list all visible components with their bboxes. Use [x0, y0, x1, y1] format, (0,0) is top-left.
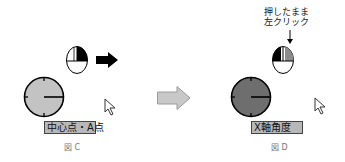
mouse-right-button-icon — [64, 45, 90, 75]
instruction-line-1: 押したまま — [264, 7, 309, 17]
right-arrow-icon — [96, 52, 118, 68]
mouse-left-button-icon — [270, 45, 296, 75]
center-point-label: 中心点・A点 — [44, 121, 96, 134]
dial-clock-icon-dark — [229, 76, 273, 118]
down-arrow-icon — [286, 30, 294, 45]
cursor-pointer-icon — [104, 98, 117, 116]
cursor-pointer-icon — [314, 97, 327, 115]
transition-arrow-icon — [157, 86, 191, 110]
figure-c-caption: 図 C — [64, 141, 80, 152]
dial-clock-icon — [22, 76, 66, 118]
x-axis-angle-label: X軸角度 — [251, 121, 303, 134]
instruction-line-2: 左クリック — [264, 17, 309, 27]
figure-d-caption: 図 D — [271, 141, 288, 152]
